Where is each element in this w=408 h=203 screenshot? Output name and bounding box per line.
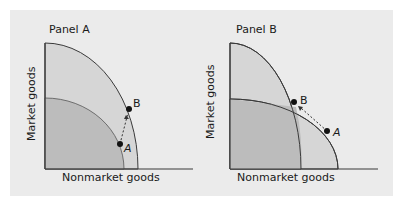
panel-a-title: Panel A [49, 23, 90, 36]
panel-a-x-label: Nonmarket goods [62, 171, 160, 184]
panel-b-inner-region [230, 99, 301, 169]
panel-b-x-label: Nonmarket goods [237, 171, 335, 184]
panel-a-point-b [126, 106, 132, 112]
panel-b-y-label: Market goods [204, 64, 217, 139]
panel-a-y-label: Market goods [25, 66, 38, 141]
panel-b: A B Panel B Market goods Nonmarket goods [204, 23, 378, 184]
panel-b-point-a [324, 128, 330, 134]
panel-a-point-a-label: A [123, 142, 132, 155]
ppf-diagram: A B Panel A Market goods Nonmarket goods… [0, 0, 408, 203]
panel-a-point-b-label: B [133, 97, 141, 110]
panel-b-point-a-label: A [332, 126, 341, 139]
panel-b-title: Panel B [236, 23, 277, 36]
panel-a: A B Panel A Market goods Nonmarket goods [25, 23, 193, 184]
panel-b-point-b-label: B [300, 94, 308, 107]
panel-b-point-b [291, 99, 297, 105]
panel-a-point-a [117, 141, 123, 147]
